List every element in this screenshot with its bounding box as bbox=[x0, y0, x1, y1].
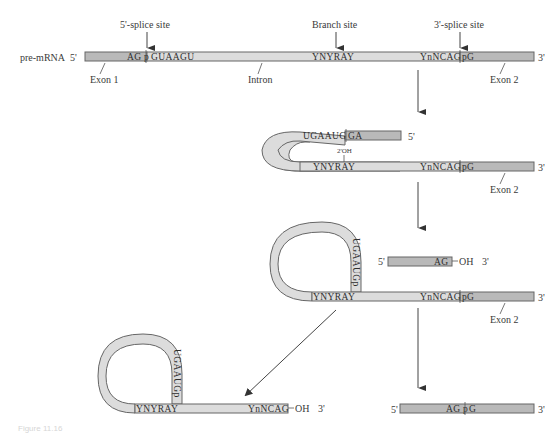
lariat-oh: OH bbox=[295, 403, 309, 414]
five-prime-label: 5' bbox=[408, 131, 415, 142]
step4-spliced-mrna: 5' AG p G 3' bbox=[391, 402, 545, 415]
three-splice-seq: YnNCAG bbox=[420, 162, 461, 172]
exon1-label: Exon 1 bbox=[90, 74, 119, 85]
three-prime-label: 3' bbox=[538, 162, 545, 173]
loop-seq-after: GA bbox=[348, 131, 363, 141]
five-splice-seq-after: GUAAGU bbox=[151, 52, 195, 62]
p-mark: p bbox=[144, 52, 149, 62]
five-splice-seq: AG bbox=[127, 52, 142, 62]
seq-before: AG bbox=[446, 404, 461, 414]
exon1-three-prime: 3' bbox=[482, 256, 489, 267]
five-prime-label: 5' bbox=[70, 52, 77, 63]
pre-mrna-label: pre-mRNA bbox=[20, 52, 66, 63]
exon1-five-prime: 5' bbox=[378, 256, 385, 267]
three-splice-seq-after: G bbox=[467, 162, 474, 172]
step1-pre-mrna: pre-mRNA 5' 5'-splice site Branch site 3… bbox=[20, 19, 545, 85]
lariat-loop bbox=[270, 222, 361, 301]
three-prime-label: 3' bbox=[538, 292, 545, 303]
exon2-label: Exon 2 bbox=[490, 314, 519, 325]
step4-excised-lariat: UGAAUGp YNYRAY YnNCAG OH 3' bbox=[98, 334, 325, 414]
branch-seq: YNYRAY bbox=[136, 404, 178, 414]
three-splice-seq: YnNCAG bbox=[248, 404, 289, 414]
three-splice-seq: YnNCAG bbox=[420, 292, 461, 302]
exon1-seq: AG bbox=[434, 257, 449, 267]
exon1-oh: OH bbox=[459, 256, 473, 267]
step3-lariat-intermediate: UGAAUGp 5' AG OH 3' YNYRAY YnNCAG p G 3'… bbox=[270, 222, 545, 325]
three-prime-label: 3' bbox=[538, 404, 545, 415]
p-mark: p bbox=[463, 404, 468, 414]
branch-seq: YNYRAY bbox=[313, 292, 355, 302]
step-arrow-3a bbox=[246, 310, 336, 395]
lariat-seq: UGAAUGp bbox=[172, 349, 182, 398]
exon2-label: Exon 2 bbox=[490, 74, 519, 85]
intron-pointer bbox=[258, 63, 262, 74]
oh-label: 2'OH bbox=[337, 147, 352, 155]
three-splice-seq: YnNCAG bbox=[420, 52, 461, 62]
exon2-pointer bbox=[500, 303, 505, 314]
step2-branch-attack: UGAAUG GA 5' 2'OH YNYRAY YnNCAG p G 3' E… bbox=[262, 129, 545, 195]
branch-seq: YNYRAY bbox=[312, 52, 354, 62]
lariat-seq: UGAAUGp bbox=[351, 238, 361, 287]
lariat-loop bbox=[98, 334, 182, 413]
figure-caption: Figure 11.16 bbox=[18, 424, 63, 433]
seq-after: G bbox=[469, 404, 476, 414]
five-prime-label: 5' bbox=[391, 404, 398, 415]
three-splice-seq-after: G bbox=[467, 52, 474, 62]
branch-site-label: Branch site bbox=[312, 19, 358, 30]
branch-seq: YNYRAY bbox=[313, 162, 355, 172]
exon2-pointer bbox=[500, 173, 505, 184]
loop-seq: UGAAUG bbox=[303, 131, 347, 141]
three-prime-label: 3' bbox=[538, 52, 545, 63]
five-splice-site-label: 5'-splice site bbox=[120, 19, 170, 30]
splicing-diagram: pre-mRNA 5' 5'-splice site Branch site 3… bbox=[0, 0, 560, 434]
exon1-pointer bbox=[100, 63, 105, 74]
exon2-label: Exon 2 bbox=[490, 184, 519, 195]
exon2-pointer bbox=[500, 63, 505, 74]
intron-label: Intron bbox=[248, 74, 272, 85]
three-splice-site-label: 3'-splice site bbox=[434, 19, 484, 30]
three-splice-seq-after: G bbox=[467, 292, 474, 302]
three-prime-label: 3' bbox=[318, 403, 325, 414]
